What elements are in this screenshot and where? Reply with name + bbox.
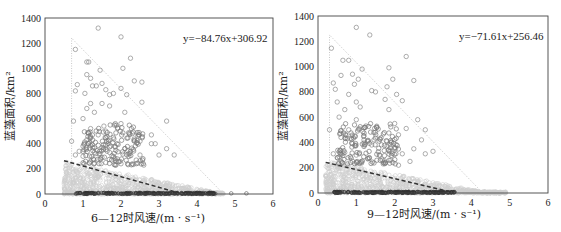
x-tick-label: 1 <box>81 198 86 209</box>
x-tick-label: 1 <box>354 197 359 208</box>
x-tick-label: 3 <box>431 197 436 208</box>
low-bloom-points <box>324 161 508 195</box>
x-axis-label: 6—12时风速/(m · s⁻¹) <box>91 212 205 225</box>
x-tick-label: 3 <box>157 198 162 209</box>
x-tick-label: 0 <box>316 197 321 208</box>
x-axis: 0123456 <box>43 198 276 209</box>
y-tick-label: 1200 <box>294 36 314 47</box>
x-axis-label: 9—12时风速/(m · s⁻¹) <box>367 208 481 221</box>
x-tick-label: 6 <box>546 197 551 208</box>
y-axis-label: 蓝藻面积/km² <box>4 71 17 140</box>
y-axis: 0200400600800100012001400 <box>294 11 314 199</box>
scatter-chart-1: 02004006008001000120014000123456y=−84.76… <box>4 13 276 226</box>
x-tick-label: 0 <box>43 198 48 209</box>
y-tick-label: 0 <box>309 188 314 199</box>
y-tick-label: 600 <box>26 113 41 124</box>
x-tick-label: 2 <box>392 197 397 208</box>
y-tick-label: 0 <box>36 189 41 200</box>
y-tick-label: 200 <box>299 162 314 173</box>
y-tick-label: 800 <box>26 88 41 99</box>
x-tick-label: 4 <box>469 197 474 208</box>
y-tick-label: 1400 <box>21 13 41 24</box>
x-tick-label: 4 <box>195 198 200 209</box>
y-tick-label: 1400 <box>294 11 314 22</box>
scatter-chart-2: 02004006008001000120014000123456y=−71.61… <box>277 11 551 222</box>
regression-equation: y=−84.76x+306.92 <box>183 32 268 44</box>
x-tick-label: 5 <box>507 197 512 208</box>
y-tick-label: 1200 <box>21 38 41 49</box>
x-tick-label: 5 <box>233 198 238 209</box>
high-bloom-points <box>327 25 435 167</box>
x-tick-label: 6 <box>271 198 276 209</box>
y-tick-label: 600 <box>299 112 314 123</box>
y-tick-label: 1000 <box>21 63 41 74</box>
y-tick-label: 400 <box>299 137 314 148</box>
x-tick-label: 2 <box>119 198 124 209</box>
y-tick-label: 200 <box>26 163 41 174</box>
high-bloom-points <box>69 26 176 167</box>
y-axis-label: 蓝藻面积/km² <box>277 71 290 140</box>
figure: 02004006008001000120014000123456y=−84.76… <box>0 0 561 232</box>
y-axis: 0200400600800100012001400 <box>21 13 41 200</box>
y-tick-label: 800 <box>299 86 314 97</box>
regression-equation: y=−71.61x+256.46 <box>459 30 544 42</box>
y-tick-label: 400 <box>26 138 41 149</box>
x-axis: 0123456 <box>316 197 551 208</box>
y-tick-label: 1000 <box>294 61 314 72</box>
